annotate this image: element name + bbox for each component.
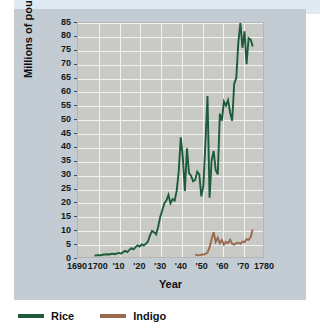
y-axis-tick-mark: [74, 258, 77, 259]
y-axis-tick-label: 5: [66, 240, 71, 249]
legend-label-indigo: Indigo: [133, 310, 166, 322]
y-axis-tick-label: 75: [61, 45, 71, 54]
legend-swatch-rice: [18, 314, 44, 318]
y-axis-tick-label: 10: [61, 226, 71, 235]
y-axis-tick-label: 70: [61, 59, 71, 68]
y-axis-tick-label: 55: [61, 101, 71, 110]
chart-figure: Millions of pounds 051015202530354045505…: [0, 0, 320, 329]
y-axis-tick-label: 45: [61, 129, 71, 138]
y-axis-tick-label: 25: [61, 184, 71, 193]
y-axis-tick-label: 15: [61, 212, 71, 221]
legend-item-indigo: Indigo: [100, 310, 166, 322]
plot-area: [77, 22, 264, 258]
series-layer: [78, 23, 263, 257]
y-axis-title: Millions of pounds: [22, 0, 34, 78]
y-axis-tick-label: 20: [61, 198, 71, 207]
x-axis-title: Year: [77, 278, 264, 290]
y-axis-tick-label: 60: [61, 87, 71, 96]
x-axis-tick-label: 1780: [250, 262, 278, 271]
y-axis-tick-label: 30: [61, 170, 71, 179]
chart-legend: Rice Indigo: [0, 305, 320, 327]
series-line-rice: [94, 23, 252, 256]
y-axis-tick-label: 85: [61, 18, 71, 27]
y-axis-tick-label: 80: [61, 31, 71, 40]
y-axis-tick-label: 35: [61, 156, 71, 165]
y-axis-tick-label: 50: [61, 115, 71, 124]
legend-swatch-indigo: [100, 314, 126, 318]
legend-label-rice: Rice: [51, 310, 74, 322]
legend-item-rice: Rice: [18, 310, 74, 322]
series-line-indigo: [195, 229, 253, 255]
y-axis-tick-label: 65: [61, 73, 71, 82]
y-axis-tick-label: 40: [61, 142, 71, 151]
